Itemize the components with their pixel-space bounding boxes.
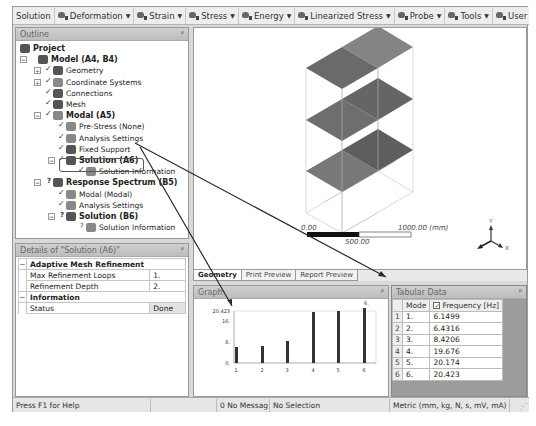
tree-node-modal-modal[interactable]: Modal (Modal) xyxy=(20,188,188,199)
collapse-icon[interactable]: − xyxy=(20,56,27,63)
table-row[interactable]: 11.6.1499 xyxy=(393,311,503,323)
tab-report-preview[interactable]: Report Preview xyxy=(295,270,358,281)
column-header-frequency[interactable]: ✓Frequency [Hz] xyxy=(430,300,503,312)
stress-dropdown[interactable]: Stress▼ xyxy=(186,8,239,24)
bar-mode-3[interactable] xyxy=(286,341,289,363)
connections-icon xyxy=(53,89,63,98)
collapse-icon[interactable]: − xyxy=(48,213,55,220)
pin-icon[interactable]: ᵖ xyxy=(181,30,184,38)
status-empty xyxy=(151,399,217,412)
y-tick: 16. xyxy=(222,318,230,324)
tree-node-analysis-settings[interactable]: Analysis Settings xyxy=(20,133,188,144)
tree-label: Response Spectrum (B5) xyxy=(66,178,177,187)
user-defined-result-icon xyxy=(496,11,506,20)
collapse-icon[interactable]: − xyxy=(48,157,55,164)
detail-key: Refinement Depth xyxy=(27,281,150,292)
scale-label-right: 1000.00 (mm) xyxy=(398,224,449,232)
bar-mode-1[interactable] xyxy=(235,347,238,363)
table-row[interactable]: 66.20.423 xyxy=(393,369,503,381)
toolbar-label: Strain xyxy=(149,11,174,21)
cell-mode: 1. xyxy=(403,311,430,323)
tree-node-analysis-settings-b[interactable]: Analysis Settings xyxy=(20,200,188,211)
bar-mode-6[interactable] xyxy=(363,308,366,363)
tree-label: Project xyxy=(33,44,65,53)
viewport-tabs: Geometry Print Preview Report Preview xyxy=(193,269,527,281)
status-messages[interactable]: 0 No Messag xyxy=(217,399,270,412)
probe-icon xyxy=(398,11,408,20)
pin-icon[interactable]: ᵖ xyxy=(181,246,184,254)
tree-node-fixed-support[interactable]: Fixed Support xyxy=(20,144,188,155)
bar-mode-4[interactable] xyxy=(312,312,315,363)
tree-node-pre-stress[interactable]: Pre-Stress (None) xyxy=(20,121,188,132)
triad-y-label: Y xyxy=(488,217,493,224)
cell-mode: 2. xyxy=(403,323,430,335)
panel-title: Graph xyxy=(198,288,223,297)
tree-label: Solution (B6) xyxy=(79,212,138,221)
collapse-icon[interactable]: − xyxy=(19,292,27,303)
chevron-down-icon: ▼ xyxy=(178,12,183,19)
tree-label: Fixed Support xyxy=(79,145,130,154)
table-row[interactable]: 44.19.676 xyxy=(393,346,503,358)
tree-node-solution-b6[interactable]: −Solution (B6) xyxy=(20,211,188,222)
tab-geometry[interactable]: Geometry xyxy=(193,270,242,281)
expand-icon[interactable]: + xyxy=(34,67,41,74)
collapse-icon[interactable]: − xyxy=(19,259,27,270)
linearized-stress-icon xyxy=(298,11,308,20)
energy-dropdown[interactable]: Energy▼ xyxy=(239,8,295,24)
tree-node-project[interactable]: Project xyxy=(20,43,188,54)
fixed-support-icon xyxy=(66,145,76,154)
resize-grip-icon[interactable]: ⋰ xyxy=(519,402,527,411)
group-label: Adaptive Mesh Refinement xyxy=(27,259,186,270)
table-row[interactable]: 22.6.4316 xyxy=(393,323,503,335)
strain-dropdown[interactable]: Strain▼ xyxy=(134,8,186,24)
deformation-dropdown[interactable]: Deformation▼ xyxy=(55,8,135,24)
collapse-icon[interactable]: − xyxy=(34,179,41,186)
tree-node-modal[interactable]: −Modal (A5) xyxy=(20,110,188,121)
status-units[interactable]: Metric (mm, kg, N, s, mV, mA) xyxy=(390,399,510,412)
chart-annotation: 6. xyxy=(364,300,369,306)
details-group[interactable]: −Information xyxy=(19,292,186,303)
details-row[interactable]: StatusDone xyxy=(19,303,186,314)
column-header-mode[interactable]: Mode xyxy=(403,300,430,312)
frequency-bar-chart[interactable]: 20.423 16. 8. 0. 6. 1 2 3 4 5 6 xyxy=(194,300,388,396)
cell-frequency: 19.676 xyxy=(430,346,503,358)
linearized-stress-dropdown[interactable]: Linearized Stress▼ xyxy=(295,8,394,24)
model-view: 0.00 1000.00 (mm) 500.00 Y X xyxy=(194,28,527,281)
pin-icon[interactable]: ᵖ xyxy=(381,288,384,296)
pin-icon[interactable]: ᵖ xyxy=(519,288,522,296)
tree-label: Mesh xyxy=(66,100,86,109)
chevron-down-icon: ▼ xyxy=(484,12,489,19)
details-group[interactable]: −Adaptive Mesh Refinement xyxy=(19,259,186,270)
toolbar-label: Solution xyxy=(16,11,51,21)
expand-icon[interactable]: + xyxy=(34,79,41,86)
response-spectrum-icon xyxy=(53,178,63,187)
geometry-viewport[interactable]: 0.00 1000.00 (mm) 500.00 Y X xyxy=(193,27,527,281)
details-row[interactable]: Max Refinement Loops1. xyxy=(19,270,186,281)
details-row[interactable]: Refinement Depth2. xyxy=(19,281,186,292)
cell-frequency: 8.4206 xyxy=(430,334,503,346)
tab-print-preview[interactable]: Print Preview xyxy=(241,270,297,281)
tree-label: Modal (A5) xyxy=(66,111,115,120)
outline-panel: Outline ᵖ Project −Model (A4, B4) +Geome… xyxy=(15,27,189,239)
detail-value[interactable]: 1. xyxy=(150,270,186,281)
checkbox-icon[interactable]: ✓ xyxy=(433,302,440,309)
collapse-icon[interactable]: − xyxy=(34,112,41,119)
toolbar-label: Deformation xyxy=(70,11,123,21)
tree-label: Geometry xyxy=(66,66,103,75)
tools-dropdown[interactable]: Tools▼ xyxy=(445,8,493,24)
detail-value[interactable]: 2. xyxy=(150,281,186,292)
bar-mode-5[interactable] xyxy=(337,311,340,363)
bar-mode-2[interactable] xyxy=(261,346,264,363)
tree-label: Modal (Modal) xyxy=(79,190,132,199)
table-row[interactable]: 33.8.4206 xyxy=(393,334,503,346)
probe-dropdown[interactable]: Probe▼ xyxy=(395,8,446,24)
indent xyxy=(19,270,27,281)
solution-toolbar: Solution Deformation▼ Strain▼ Stress▼ En… xyxy=(13,7,529,25)
table-row[interactable]: 55.20.174 xyxy=(393,357,503,369)
tree-node-solution-information-b6[interactable]: Solution Information xyxy=(20,222,188,233)
solution-icon xyxy=(66,212,76,221)
tree-node-response-spectrum[interactable]: −Response Spectrum (B5) xyxy=(20,177,188,188)
user-defined-result-button[interactable]: User Defined Resu xyxy=(493,8,529,24)
chevron-down-icon: ▼ xyxy=(230,12,235,19)
project-icon xyxy=(20,44,30,53)
